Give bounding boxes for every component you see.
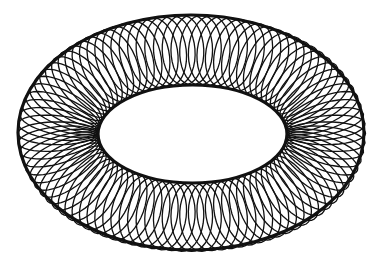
torus-inner-edge: [98, 85, 287, 183]
coil-loop: [45, 146, 106, 204]
coil-loop: [277, 63, 338, 121]
torus-figure: [0, 0, 379, 269]
